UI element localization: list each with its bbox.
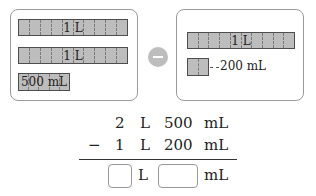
- bar-label: 500 mL: [19, 74, 69, 90]
- milliliter-bar: [187, 58, 209, 76]
- callout-line: [210, 67, 219, 68]
- answer-liters-input[interactable]: [108, 164, 132, 188]
- liter-bar-2: 1 L: [18, 47, 128, 64]
- answer-milliliters-input[interactable]: [158, 164, 198, 188]
- row2-unit-l: L: [140, 136, 150, 154]
- bar-label: 1 L: [19, 20, 127, 35]
- liter-bar: 1 L: [187, 32, 295, 49]
- liter-bar-1: 1 L: [18, 19, 128, 36]
- row1-unit-l: L: [140, 114, 150, 132]
- row1-part: 500: [164, 114, 193, 132]
- sum-line: [79, 159, 237, 160]
- answer-unit-l: L: [138, 166, 148, 184]
- row2-whole: 1: [115, 136, 125, 154]
- milliliter-bar: 500 mL: [18, 73, 70, 91]
- row2-part: 200: [164, 136, 193, 154]
- subtrahend-panel: 1 L 200 mL: [176, 9, 304, 101]
- bar-label: 1 L: [19, 48, 127, 63]
- row2-unit-ml: mL: [204, 136, 228, 154]
- answer-unit-ml: mL: [204, 166, 228, 184]
- bar-label: 1 L: [188, 33, 294, 48]
- callout-label: 200 mL: [220, 59, 266, 73]
- row1-whole: 2: [115, 114, 125, 132]
- minuend-panel: 1 L 1 L 500 mL: [10, 9, 138, 101]
- minus-icon: [148, 47, 168, 67]
- row1-unit-ml: mL: [204, 114, 228, 132]
- minus-sign: −: [88, 136, 101, 154]
